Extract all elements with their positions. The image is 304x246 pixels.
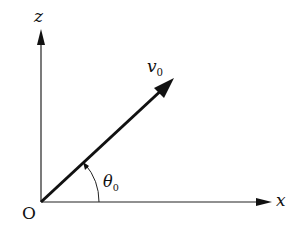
origin-label: O (22, 203, 36, 223)
x-axis (41, 198, 272, 206)
angle-arc (83, 162, 99, 202)
angle-label: θ0 (103, 172, 119, 193)
z-axis (37, 29, 45, 202)
diagram-graphics (0, 0, 304, 246)
diagram: z x O v0 θ0 (0, 0, 304, 246)
x-axis-label: x (276, 190, 286, 210)
x-axis-arrowhead-icon (256, 198, 272, 206)
z-axis-label: z (34, 6, 43, 26)
velocity-label: v0 (147, 56, 163, 78)
z-axis-arrowhead-icon (37, 29, 45, 45)
angle-arrowhead-icon (83, 162, 89, 170)
